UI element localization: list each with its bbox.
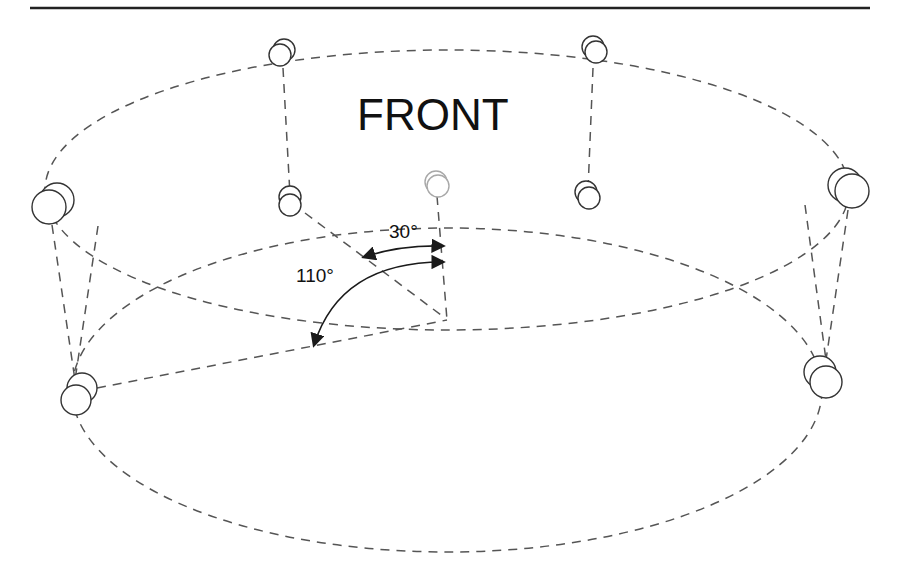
connector-left-side-2: [75, 226, 98, 380]
speaker-top-front-left-icon: [269, 39, 295, 66]
speaker-top-side-left-icon: [32, 183, 74, 224]
angle-label-110: 110°: [296, 265, 334, 286]
speaker-center-icon: [425, 171, 449, 197]
angle-arc-30: [364, 246, 443, 257]
speaker-top-side-right-icon: [828, 168, 869, 208]
speaker-surround-right-icon: [804, 356, 842, 398]
line-center-vertical: [437, 196, 447, 320]
floor-layer-ellipse: [72, 228, 822, 552]
angle-label-30: 30°: [389, 221, 418, 242]
connector-left-side: [52, 225, 75, 380]
connector-right-side-2: [805, 205, 826, 360]
speaker-surround-left-icon: [61, 373, 97, 415]
connector-front-right: [588, 68, 593, 190]
speaker-layout-diagram: FRONT 30° 110°: [0, 0, 901, 578]
connector-front-left: [283, 68, 290, 195]
speaker-front-right-icon: [575, 181, 600, 209]
line-surround-left-to-center: [97, 320, 447, 388]
front-label: FRONT: [357, 90, 509, 139]
speaker-front-left-icon: [279, 186, 301, 216]
